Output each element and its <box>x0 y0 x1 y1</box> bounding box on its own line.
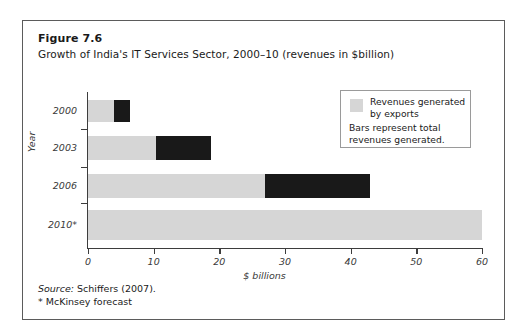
x-axis-tick <box>416 249 417 254</box>
x-axis-tick <box>88 249 89 254</box>
x-axis-tick <box>482 249 483 254</box>
forecast-note: * McKinsey forecast <box>38 296 132 307</box>
source-line: Source: Schiffers (2007). <box>38 283 156 294</box>
x-axis-title: $ billions <box>0 270 529 281</box>
figure-title: Growth of India's IT Services Sector, 20… <box>38 48 394 60</box>
y-axis-tick <box>81 203 87 204</box>
x-axis-tick <box>285 249 286 254</box>
figure-screenshot: Figure 7.6 Growth of India's IT Services… <box>0 0 529 336</box>
y-axis-tick-label: 2003 <box>33 142 77 153</box>
x-axis-tick <box>351 249 352 254</box>
x-axis-tick-label: 30 <box>279 256 291 267</box>
bar-segment <box>114 100 130 122</box>
chart-legend: Revenues generated by exports Bars repre… <box>340 90 471 148</box>
figure-label: Figure 7.6 <box>38 32 102 45</box>
source-prefix: Source: <box>38 283 74 294</box>
bar-segment <box>88 136 156 160</box>
y-axis-tick-label: 2010* <box>33 219 77 230</box>
bar-segment <box>88 100 114 122</box>
y-axis-tick-label: 2000 <box>33 105 77 116</box>
x-axis-tick-label: 40 <box>345 256 357 267</box>
x-axis-tick <box>219 249 220 254</box>
x-axis-tick-label: 0 <box>85 256 91 267</box>
x-axis-tick-label: 50 <box>410 256 422 267</box>
legend-label-exports: Revenues generated by exports <box>370 96 468 119</box>
bar-segment <box>265 174 370 198</box>
legend-note: Bars represent total revenues generated. <box>349 122 469 145</box>
x-axis-tick-label: 60 <box>476 256 488 267</box>
x-axis-tick-label: 20 <box>213 256 225 267</box>
y-axis-tick <box>81 129 87 130</box>
y-axis-tick-label: 2006 <box>33 180 77 191</box>
bar-segment <box>88 174 265 198</box>
y-axis-tick <box>81 167 87 168</box>
x-axis-tick-label: 10 <box>148 256 160 267</box>
x-axis-tick <box>154 249 155 254</box>
source-text: Schiffers (2007). <box>77 283 156 294</box>
bar-segment <box>156 136 212 160</box>
bar-segment <box>88 210 482 240</box>
legend-swatch-exports-icon <box>350 99 363 112</box>
